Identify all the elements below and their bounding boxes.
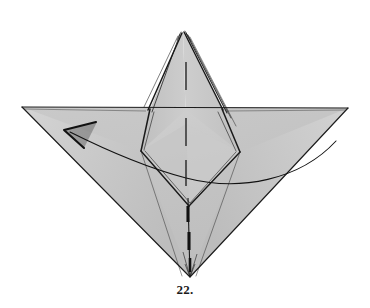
figure-caption: 22.: [0, 283, 370, 296]
origami-diagram-svg: [0, 0, 370, 308]
origami-figure: 22.: [0, 0, 370, 308]
paper-body-fills: [22, 32, 348, 277]
